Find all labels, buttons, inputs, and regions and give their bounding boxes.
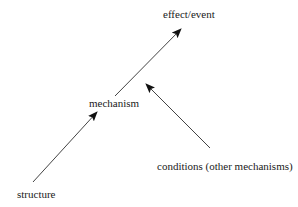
node-effect-event: effect/event (163, 8, 215, 20)
node-conditions: conditions (other mechanisms) (157, 160, 293, 172)
arrow-conditions-to-link (146, 84, 210, 148)
node-structure: structure (17, 188, 55, 200)
node-mechanism: mechanism (89, 97, 139, 109)
causal-diagram: effect/event mechanism structure conditi… (0, 0, 298, 207)
arrows-layer (0, 0, 298, 207)
arrow-structure-to-mechanism (33, 112, 97, 182)
